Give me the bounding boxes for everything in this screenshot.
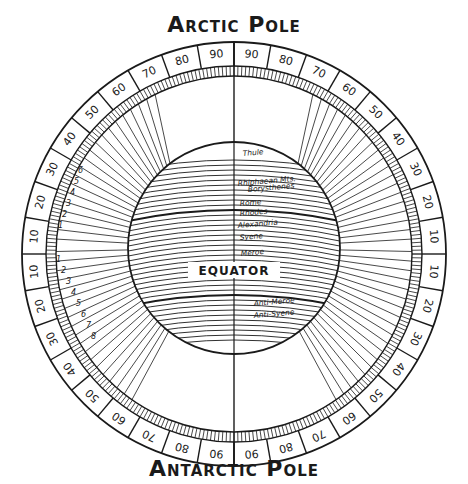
degree-label: 30 xyxy=(407,160,425,178)
degree-label: 10 xyxy=(27,264,41,279)
climate-number: 5 xyxy=(76,299,81,308)
degree-label: 70 xyxy=(140,427,158,445)
degree-label: 50 xyxy=(83,386,102,405)
degree-label: 60 xyxy=(340,409,359,428)
degree-label: 10 xyxy=(27,229,41,244)
degree-label: 20 xyxy=(420,297,436,314)
degree-label: 90 xyxy=(209,47,224,61)
degree-label: 20 xyxy=(32,194,48,211)
degree-label: 60 xyxy=(340,80,359,99)
climate-number: 5 xyxy=(74,177,79,186)
degree-label: 10 xyxy=(427,264,441,279)
degree-label: 10 xyxy=(427,229,441,244)
degree-label: 30 xyxy=(43,160,61,178)
degree-label: 50 xyxy=(366,386,385,405)
climate-number: 4 xyxy=(71,288,76,297)
climate-number: 1 xyxy=(58,221,63,230)
degree-label: 70 xyxy=(310,427,328,445)
climate-number: 4 xyxy=(70,188,75,197)
degree-label: 50 xyxy=(83,103,102,122)
climate-number: 3 xyxy=(66,199,71,208)
degree-label: 30 xyxy=(407,330,425,348)
degree-label: 80 xyxy=(174,440,191,456)
degree-label: 80 xyxy=(277,440,294,456)
climate-number: 2 xyxy=(62,210,67,219)
degree-label: 80 xyxy=(174,52,191,68)
degree-label: 30 xyxy=(43,330,61,348)
place-label: Thule xyxy=(242,147,264,158)
degree-label: 70 xyxy=(140,63,158,81)
climate-number: 8 xyxy=(91,332,96,341)
climate-number: 1 xyxy=(56,255,61,264)
degree-label: 70 xyxy=(310,63,328,81)
degree-label: 40 xyxy=(60,360,79,379)
degree-label: 20 xyxy=(32,297,48,314)
degree-label: 50 xyxy=(366,103,385,122)
degree-label: 90 xyxy=(244,447,259,461)
degree-label: 60 xyxy=(110,409,129,428)
degree-label: 90 xyxy=(244,47,259,61)
degree-label: 40 xyxy=(60,130,79,149)
climate-number: 2 xyxy=(61,266,66,275)
climate-zone-diagram: 1010202030304040505060607070808090901010… xyxy=(0,0,468,484)
degree-label: 80 xyxy=(277,52,294,68)
climate-number: 6 xyxy=(78,166,83,175)
climate-number: 3 xyxy=(66,277,71,286)
climate-number: 6 xyxy=(81,310,86,319)
equator-label: EQUATOR xyxy=(199,264,270,278)
degree-label: 90 xyxy=(209,447,224,461)
degree-label: 20 xyxy=(420,194,436,211)
degree-label: 40 xyxy=(389,130,408,149)
degree-label: 60 xyxy=(110,80,129,99)
degree-label: 40 xyxy=(389,360,408,379)
